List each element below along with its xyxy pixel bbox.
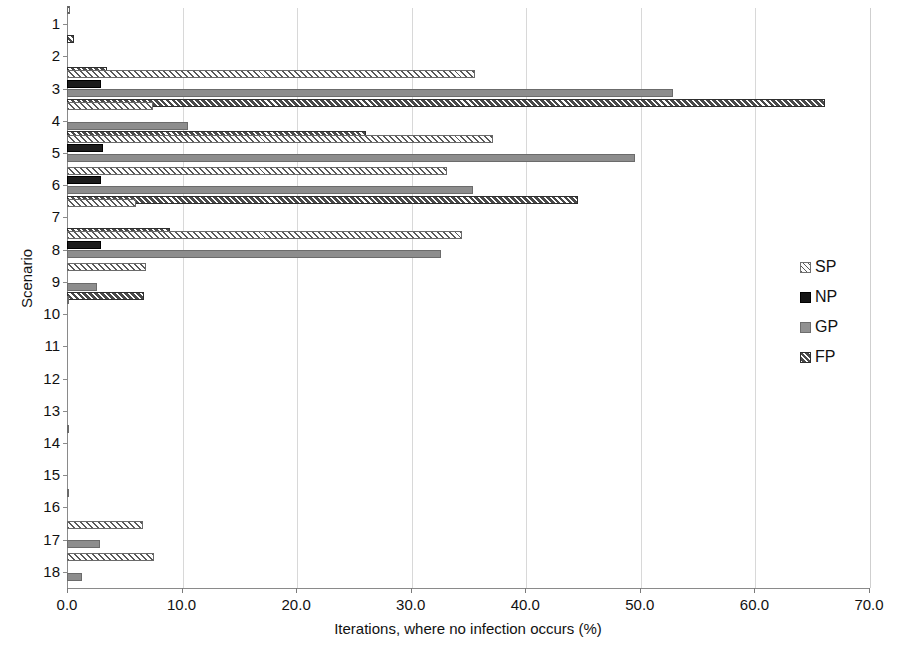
y-tick-label: 14	[22, 434, 60, 451]
y-tick-label: 10	[22, 305, 60, 322]
bar-fp-scenario-9	[67, 292, 144, 300]
y-tick-label: 6	[22, 176, 60, 193]
legend-item-sp[interactable]: SP	[800, 252, 874, 282]
legend-swatch-gp-icon	[800, 322, 811, 333]
x-tick-label: 10.0	[152, 596, 212, 613]
y-tick-label: 17	[22, 531, 60, 548]
bar-sp-scenario-8	[67, 231, 462, 239]
legend-label: GP	[815, 319, 838, 335]
bar-np-scenario-8	[67, 241, 101, 249]
x-tick-label: 40.0	[495, 596, 555, 613]
bar-gp-scenario-3	[67, 89, 673, 97]
bar-sp-scenario-18	[67, 553, 154, 561]
x-tick-mark	[754, 588, 755, 593]
x-tick-mark	[869, 588, 870, 593]
bar-np-scenario-3	[67, 80, 101, 88]
bar-gp-scenario-4	[67, 122, 188, 130]
bar-fp-scenario-6	[67, 196, 578, 204]
legend-label: NP	[815, 289, 837, 305]
bar-sp-scenario-16	[67, 489, 69, 497]
y-tick-mark	[63, 507, 67, 508]
x-tick-label: 20.0	[266, 596, 326, 613]
y-tick-label: 7	[22, 208, 60, 225]
y-tick-label: 16	[22, 498, 60, 515]
bar-gp-scenario-5	[67, 154, 635, 162]
bar-sp-scenario-3	[67, 70, 475, 78]
y-tick-mark	[63, 475, 67, 476]
x-tick-mark	[411, 588, 412, 593]
legend-label: SP	[815, 259, 836, 275]
x-tick-label: 0.0	[37, 596, 97, 613]
legend-item-gp[interactable]: GP	[800, 312, 874, 342]
bar-sp-scenario-4	[67, 102, 153, 110]
bar-sp-scenario-7	[67, 199, 136, 207]
x-tick-mark	[182, 588, 183, 593]
bar-chart: Scenario Iterations, where no infection …	[0, 0, 897, 647]
bar-sp-scenario-5	[67, 135, 493, 143]
y-tick-mark	[63, 56, 67, 57]
bar-np-scenario-5	[67, 144, 103, 152]
bar-gp-scenario-6	[67, 186, 473, 194]
y-tick-mark	[63, 379, 67, 380]
bar-gp-scenario-9	[67, 283, 97, 291]
x-tick-mark	[525, 588, 526, 593]
legend-swatch-fp-icon	[800, 352, 811, 363]
y-tick-label: 2	[22, 47, 60, 64]
y-tick-mark	[63, 24, 67, 25]
bar-sp-scenario-1	[67, 6, 70, 14]
bar-sp-scenario-14	[67, 425, 69, 433]
y-tick-mark	[63, 314, 67, 315]
bar-fp-scenario-1	[67, 35, 74, 43]
bar-sp-scenario-10	[67, 296, 69, 304]
y-tick-mark	[63, 346, 67, 347]
y-tick-label: 12	[22, 370, 60, 387]
x-tick-label: 60.0	[724, 596, 784, 613]
y-tick-mark	[63, 443, 67, 444]
legend-swatch-np-icon	[800, 292, 811, 303]
bar-gp-scenario-17	[67, 540, 100, 548]
y-tick-label: 9	[22, 273, 60, 290]
legend-item-np[interactable]: NP	[800, 282, 874, 312]
y-tick-label: 1	[22, 15, 60, 32]
x-tick-label: 30.0	[381, 596, 441, 613]
y-tick-label: 8	[22, 241, 60, 258]
y-tick-label: 3	[22, 80, 60, 97]
x-tick-mark	[67, 588, 68, 593]
bar-sp-scenario-17	[67, 521, 143, 529]
y-tick-label: 4	[22, 112, 60, 129]
x-tick-label: 70.0	[839, 596, 897, 613]
legend-swatch-sp-icon	[800, 262, 811, 273]
x-axis-title: Iterations, where no infection occurs (%…	[67, 620, 869, 637]
y-tick-label: 15	[22, 466, 60, 483]
legend-label: FP	[815, 349, 835, 365]
bar-sp-scenario-6	[67, 167, 447, 175]
x-tick-mark	[640, 588, 641, 593]
chart-legend: SPNPGPFP	[800, 252, 874, 372]
y-tick-label: 13	[22, 402, 60, 419]
y-tick-mark	[63, 411, 67, 412]
x-tick-label: 50.0	[610, 596, 670, 613]
y-tick-mark	[63, 217, 67, 218]
bar-sp-scenario-9	[67, 263, 146, 271]
bar-fp-scenario-3	[67, 99, 825, 107]
x-tick-mark	[296, 588, 297, 593]
y-tick-label: 18	[22, 563, 60, 580]
gridline	[755, 8, 756, 588]
bar-np-scenario-6	[67, 176, 101, 184]
y-tick-label: 5	[22, 144, 60, 161]
bar-gp-scenario-8	[67, 250, 441, 258]
bar-gp-scenario-18	[67, 573, 82, 581]
legend-item-fp[interactable]: FP	[800, 342, 874, 372]
y-tick-label: 11	[22, 337, 60, 354]
